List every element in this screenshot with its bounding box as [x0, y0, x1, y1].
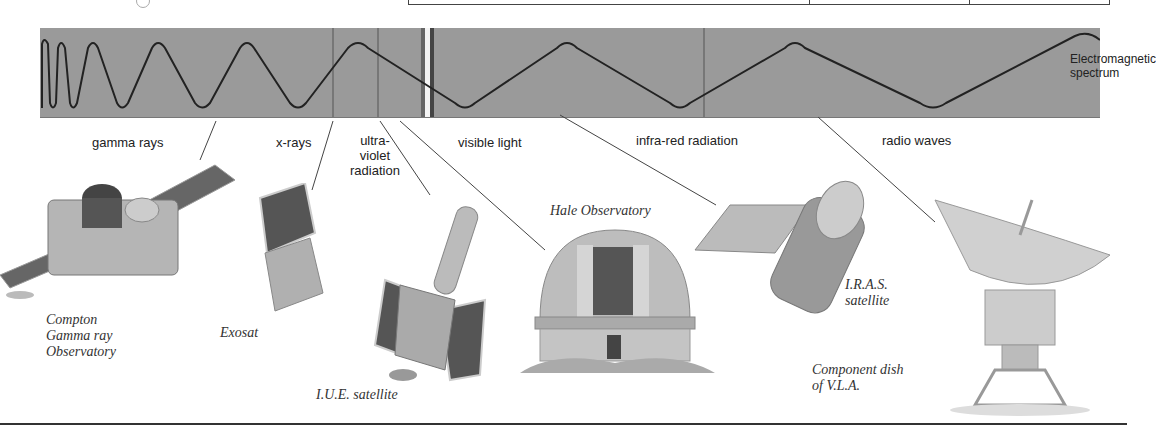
label-ultraviolet-line2: violet	[350, 148, 400, 163]
compton-line2: Gamma ray	[46, 328, 116, 344]
label-exosat: Exosat	[220, 325, 258, 341]
bottom-rule	[0, 423, 1127, 425]
label-vla-dish: Component dish of V.L.A.	[812, 362, 903, 394]
label-x-rays: x-rays	[276, 135, 311, 150]
label-ultraviolet-line1: ultra-	[350, 133, 400, 148]
label-radio-waves: radio waves	[882, 133, 951, 148]
radio-dish-icon	[930, 195, 1120, 420]
label-infra-red: infra-red radiation	[636, 133, 738, 148]
vla-line2: of V.L.A.	[812, 378, 903, 394]
label-hale-observatory: Hale Observatory	[550, 203, 651, 219]
label-iras-satellite: I.R.A.S. satellite	[845, 277, 889, 309]
label-visible-light: visible light	[458, 135, 522, 150]
gamma-ray-satellite-icon	[0, 160, 240, 300]
infrared-satellite-icon	[690, 175, 865, 315]
label-compton-observatory: Compton Gamma ray Observatory	[46, 312, 116, 360]
label-iue-satellite: I.U.E. satellite	[316, 387, 398, 403]
uv-satellite-icon	[365, 205, 495, 385]
iras-line2: satellite	[845, 293, 889, 309]
label-ultraviolet-line3: radiation	[350, 163, 400, 178]
vla-line1: Component dish	[812, 362, 903, 378]
label-ultraviolet: ultra- violet radiation	[350, 133, 400, 178]
x-ray-satellite-icon	[255, 183, 330, 313]
label-gamma-rays: gamma rays	[92, 135, 164, 150]
compton-line3: Observatory	[46, 344, 116, 360]
observatory-dome-icon	[515, 225, 715, 375]
iras-line1: I.R.A.S.	[845, 277, 889, 293]
compton-line1: Compton	[46, 312, 116, 328]
